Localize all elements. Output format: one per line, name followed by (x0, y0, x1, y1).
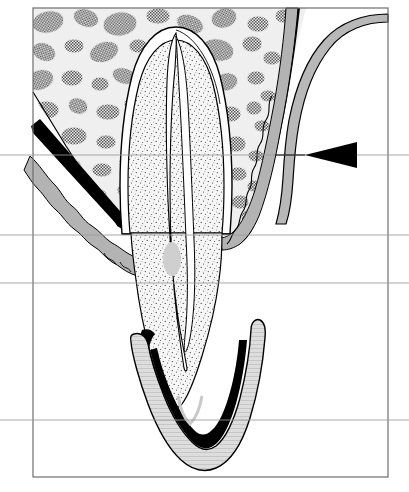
tooth-cross-section-illustration (0, 0, 409, 492)
figure-root: Cross-sectional anatomical diagram of an… (0, 0, 409, 492)
pulp-marker-oval (163, 242, 181, 276)
